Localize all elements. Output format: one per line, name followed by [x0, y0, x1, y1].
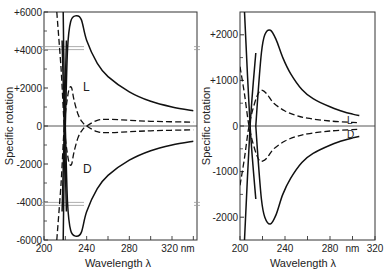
left-panel: +6000+4000+20000-2000-4000-6000200240280… [14, 7, 200, 255]
left-x-axis-title: Wavelength λ [85, 257, 152, 269]
y-tick-label: +2000 [14, 83, 43, 94]
y-tick-label: +4000 [14, 45, 43, 56]
right-curve-label-L: L [347, 115, 353, 126]
x-tick-label: 200 [232, 243, 249, 254]
x-tick-label: 240 [277, 243, 294, 254]
x-tick-label: 320 nm [161, 243, 194, 254]
right-x-axis-title: Wavelength λ [270, 257, 337, 269]
left-y-axis-title: Specific rotation [3, 87, 15, 165]
right-panel: +2000+10000-1000-2000200240280320nm [210, 12, 384, 254]
y-tick-label: -2000 [16, 159, 42, 170]
right-curve-label-D: D [347, 129, 354, 140]
x-tick-label: 240 [78, 243, 95, 254]
x-unit-label: nm [346, 243, 360, 254]
figure: +6000+4000+20000-2000-4000-6000200240280… [0, 0, 388, 276]
right-y-axis-title: Specific rotation [200, 87, 212, 165]
y-tick-label: +1000 [210, 75, 239, 86]
y-tick-label: +6000 [14, 7, 43, 18]
y-tick-label: +2000 [210, 29, 239, 40]
x-tick-label: 280 [121, 243, 138, 254]
x-tick-label: 280 [322, 243, 339, 254]
y-tick-label: -1000 [212, 166, 238, 177]
y-tick-label: 0 [232, 121, 238, 132]
x-tick-label: 200 [36, 243, 53, 254]
y-tick-label: -4000 [16, 197, 42, 208]
y-tick-label: -2000 [212, 212, 238, 223]
series-line [256, 30, 359, 126]
y-tick-label: 0 [36, 121, 42, 132]
left-curve-label-L: L [83, 80, 90, 94]
x-tick-label: 320 [367, 243, 384, 254]
series-line [256, 126, 359, 224]
left-curve-label-D: D [83, 162, 92, 176]
